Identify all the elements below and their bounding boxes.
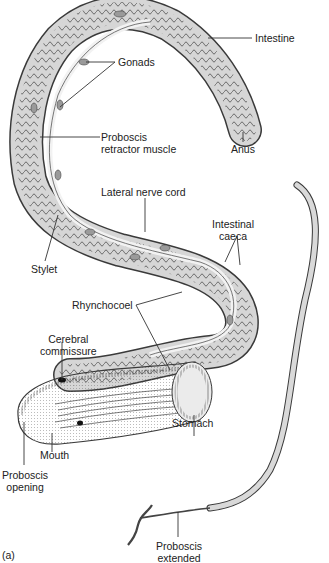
label-proboscis-extended-line2: extended bbox=[156, 552, 202, 563]
label-stomach: Stomach bbox=[172, 417, 213, 429]
label-proboscis-opening-line1: Proboscis bbox=[2, 469, 48, 481]
label-stylet: Stylet bbox=[31, 263, 57, 275]
label-proboscis-extended-line1: Proboscis bbox=[156, 540, 202, 552]
label-anus: Anus bbox=[231, 143, 255, 155]
label-cerebral-commissure: Cerebral commissure bbox=[40, 333, 97, 357]
label-cerebral-commissure-line1: Cerebral bbox=[40, 333, 97, 345]
label-intestinal-caeca-line1: Intestinal bbox=[212, 218, 254, 230]
label-proboscis-retractor-muscle: Proboscis retractor muscle bbox=[101, 131, 176, 155]
panel-label: (a) bbox=[2, 549, 15, 561]
head-region bbox=[18, 362, 212, 444]
label-intestinal-caeca: Intestinal caeca bbox=[212, 218, 254, 242]
label-proboscis-retractor-line1: Proboscis bbox=[101, 131, 176, 143]
label-intestine: Intestine bbox=[255, 32, 295, 44]
label-intestinal-caeca-line2: caeca bbox=[212, 230, 254, 242]
label-proboscis-extended: Proboscis extended bbox=[156, 540, 202, 563]
label-proboscis-opening: Proboscis opening bbox=[2, 469, 48, 493]
worm-illustration bbox=[0, 0, 329, 563]
label-mouth: Mouth bbox=[40, 449, 69, 461]
label-cerebral-commissure-line2: commissure bbox=[40, 345, 97, 357]
label-rhynchocoel: Rhynchocoel bbox=[72, 299, 133, 311]
label-proboscis-retractor-line2: retractor muscle bbox=[101, 143, 176, 155]
label-proboscis-opening-line2: opening bbox=[2, 481, 48, 493]
label-lateral-nerve-cord: Lateral nerve cord bbox=[101, 186, 186, 198]
label-gonads: Gonads bbox=[118, 56, 155, 68]
